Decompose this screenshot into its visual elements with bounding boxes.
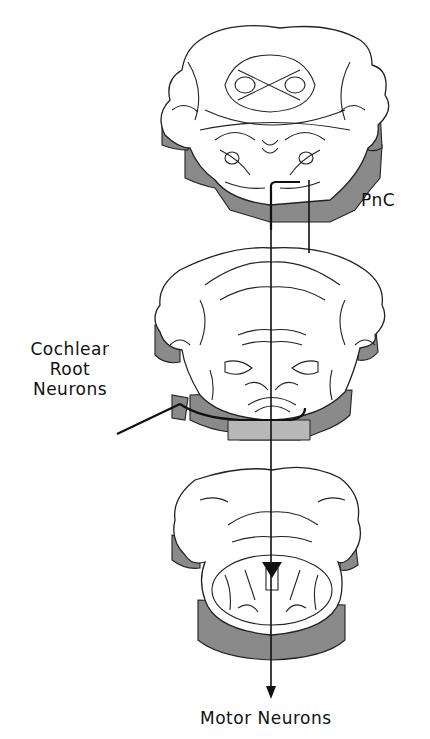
cochlear-label-line3: Neurons — [0, 379, 140, 399]
pnc-label: PnC — [361, 190, 395, 210]
cochlear-root-neurons-label: Cochlear Root Neurons — [0, 339, 140, 399]
middle-brain-slice — [155, 248, 385, 440]
bottom-brain-slice — [172, 467, 360, 660]
cochlear-root-pointer-line — [117, 404, 180, 434]
top-brain-slice — [161, 26, 389, 222]
motor-neurons-label: Motor Neurons — [200, 708, 332, 728]
cochlear-label-line1: Cochlear — [0, 339, 140, 359]
arrowhead-icon — [266, 686, 276, 699]
cochlear-label-line2: Root — [0, 359, 140, 379]
